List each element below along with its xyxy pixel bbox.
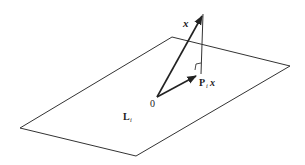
projection-label-main: P [199, 77, 205, 88]
plane-label-main: L [123, 111, 130, 122]
plane-label-sub: i [130, 116, 132, 123]
projection-label-tail: x [209, 77, 215, 88]
projection-label: P i x [199, 77, 215, 89]
plane-L-i [20, 37, 290, 156]
projection-label-sub: i [206, 82, 208, 89]
right-angle-marker [195, 63, 201, 70]
vector-x-label: x [182, 17, 189, 29]
origin-label: 0 [150, 98, 155, 109]
plane-label: L i [123, 111, 132, 123]
projection-diagram: x 0 P i x L i [0, 0, 305, 165]
